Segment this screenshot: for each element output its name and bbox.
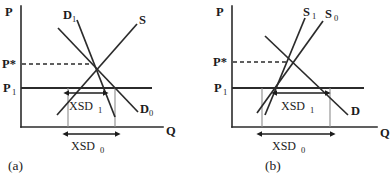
panel-a-label-D0: D 0: [140, 102, 153, 118]
svg-text:1: 1: [72, 14, 76, 24]
panel-b-price-star-label: P*: [213, 55, 227, 69]
supply-demand-figure: P Q P* P 1 S D 1 D 0: [0, 0, 391, 176]
panel-b-price-one-label: P 1: [214, 81, 227, 97]
panel-b-demand-curve-D: [265, 36, 348, 115]
panel-b-label-S0: S 0: [325, 7, 338, 23]
panel-a: P Q P* P 1 S D 1 D 0: [2, 5, 176, 173]
svg-text:S: S: [303, 5, 310, 19]
panel-b-label-D: D: [351, 104, 360, 118]
svg-text:1: 1: [223, 87, 227, 97]
panel-a-xsd0-label: XSD 0: [71, 139, 104, 155]
panel-b-xsd0-label: XSD 0: [272, 139, 305, 155]
panel-a-label-D1: D 1: [63, 8, 76, 24]
svg-text:S: S: [139, 13, 146, 27]
svg-text:XSD: XSD: [71, 139, 95, 153]
svg-text:1: 1: [12, 87, 16, 97]
svg-text:0: 0: [301, 145, 305, 155]
svg-text:0: 0: [149, 108, 153, 118]
svg-text:1: 1: [310, 105, 314, 115]
panel-a-xsd1-label: XSD 1: [69, 99, 102, 115]
panel-a-caption: (a): [8, 158, 23, 173]
svg-text:0: 0: [334, 13, 338, 23]
panel-b-y-axis-label: P: [216, 5, 224, 19]
panel-a-x-axis-label: Q: [166, 124, 176, 138]
panel-b-label-S1: S 1: [303, 5, 316, 21]
svg-text:P: P: [214, 81, 222, 95]
svg-text:XSD: XSD: [281, 99, 305, 113]
svg-text:0: 0: [100, 145, 104, 155]
svg-text:XSD: XSD: [272, 139, 296, 153]
panel-a-price-star-label: P*: [2, 57, 16, 71]
svg-text:1: 1: [312, 11, 316, 21]
panel-a-price-one-label: P 1: [3, 81, 16, 97]
panel-b-xsd1-label: XSD 1: [281, 99, 314, 115]
svg-text:XSD: XSD: [69, 99, 93, 113]
svg-text:1: 1: [98, 105, 102, 115]
panel-b: P Q P* P 1 S 1 S 0 D: [213, 5, 390, 173]
svg-text:D: D: [63, 8, 72, 22]
panel-b-x-axis-label: Q: [380, 126, 390, 140]
svg-text:P: P: [3, 81, 11, 95]
svg-text:S: S: [325, 7, 332, 21]
panel-b-caption: (b): [265, 158, 281, 173]
svg-text:D: D: [140, 102, 149, 116]
svg-text:D: D: [351, 104, 360, 118]
panel-a-label-S: S: [139, 13, 146, 27]
panel-a-y-axis-label: P: [5, 5, 13, 19]
